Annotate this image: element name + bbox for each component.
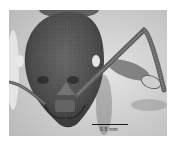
scale-bar-label: 0.5 mm bbox=[100, 126, 118, 132]
right-eye bbox=[92, 55, 100, 67]
ant-head-illustration bbox=[9, 10, 167, 136]
scale-bar bbox=[92, 124, 128, 125]
specimen-photo bbox=[9, 10, 167, 136]
left-eye bbox=[16, 55, 24, 67]
